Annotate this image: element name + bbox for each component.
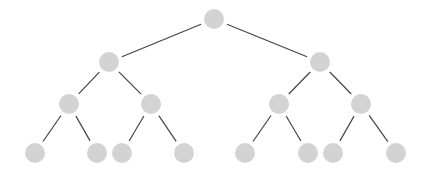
tree-edge (79, 72, 100, 94)
leaf-node (174, 143, 194, 163)
tree-edge (159, 116, 176, 142)
leaf-node (25, 143, 45, 163)
tree-node (269, 94, 289, 114)
tree-node (351, 94, 371, 114)
tree-nodes (25, 9, 406, 163)
tree-edge (289, 72, 310, 94)
tree-edge (76, 116, 90, 141)
root-node (204, 9, 224, 29)
tree-node (59, 94, 79, 114)
tree-edge (129, 116, 144, 141)
leaf-node (386, 143, 406, 163)
tree-edge (122, 24, 201, 56)
leaf-node (87, 143, 107, 163)
tree-edge (253, 116, 271, 142)
leaf-node (112, 143, 132, 163)
tree-node (310, 52, 330, 72)
binary-tree-diagram (0, 0, 425, 175)
leaf-node (235, 143, 255, 163)
tree-edge (369, 115, 388, 141)
tree-node (99, 52, 119, 72)
tree-edge (43, 116, 61, 142)
tree-edge (340, 116, 354, 141)
leaf-node (298, 143, 318, 163)
tree-edge (119, 72, 141, 94)
tree-edges (43, 24, 388, 141)
tree-edge (286, 116, 301, 141)
tree-edge (227, 24, 307, 56)
leaf-node (323, 143, 343, 163)
tree-node (141, 94, 161, 114)
tree-edge (330, 72, 351, 94)
